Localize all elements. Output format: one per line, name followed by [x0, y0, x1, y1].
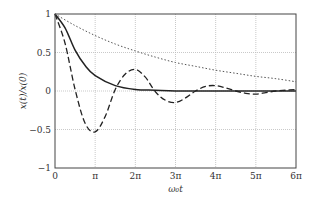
y-tick-label: 0 [45, 86, 51, 96]
x-tick-label: 2π [130, 171, 142, 181]
y-axis-label: x(t)/x(0) [18, 72, 28, 109]
x-tick-label: 5π [250, 171, 262, 181]
y-tick-label: −1 [38, 163, 51, 173]
x-axis-label: ω₀t [168, 184, 183, 194]
x-tick-labels: 0π2π3π4π5π6π [52, 171, 302, 181]
x-tick-label: 6π [290, 171, 302, 181]
y-tick-labels: −1−0.500.51 [29, 9, 51, 173]
x-tick-label: π [92, 171, 98, 181]
x-tick-label: 3π [170, 171, 182, 181]
y-tick-label: −0.5 [29, 125, 51, 135]
y-tick-label: 1 [45, 9, 51, 19]
x-tick-label: 0 [52, 171, 58, 181]
chart: 0π2π3π4π5π6π −1−0.500.51 ω₀t x(t)/x(0) [0, 0, 311, 214]
y-tick-label: 0.5 [37, 48, 52, 58]
x-tick-label: 4π [210, 171, 222, 181]
